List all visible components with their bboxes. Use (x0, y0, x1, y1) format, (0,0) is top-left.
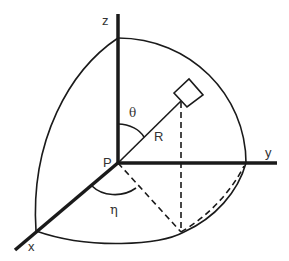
theta-label: θ (129, 106, 136, 120)
projection-lines (118, 102, 244, 232)
spherical-coordinate-diagram: z y x P θ R η (0, 0, 289, 261)
x-axis-label: x (28, 239, 35, 254)
y-axis-label: y (265, 145, 272, 160)
axes (15, 14, 277, 250)
eta-label: η (110, 202, 118, 217)
theta-arc (118, 124, 144, 137)
ground-projection (118, 163, 181, 232)
radius-label: R (154, 129, 163, 144)
eta-arc (92, 186, 136, 195)
radius-vector (118, 101, 181, 163)
origin-label: P (103, 155, 112, 170)
arc-z-to-x (35, 38, 118, 231)
x-axis (15, 162, 119, 250)
z-axis-label: z (102, 13, 109, 28)
arc-x-to-y (36, 163, 246, 244)
projection-arc (181, 166, 244, 232)
